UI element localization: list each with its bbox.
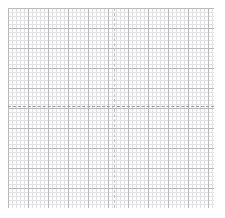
chart-title xyxy=(0,0,1,1)
plot-frame xyxy=(8,8,214,208)
plot-canvas[interactable] xyxy=(0,0,225,218)
x-axis-label xyxy=(0,0,1,1)
y-axis-label xyxy=(0,0,1,1)
